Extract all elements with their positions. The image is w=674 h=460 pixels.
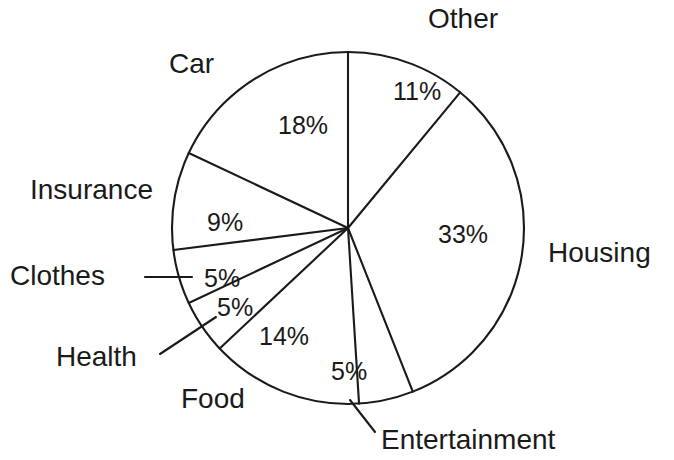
percentage-label-insurance: 9%: [207, 208, 243, 236]
category-label-clothes: Clothes: [10, 260, 105, 291]
leader-line-entertainment: [350, 400, 375, 432]
category-label-car: Car: [169, 48, 214, 79]
slice-category-labels: OtherHousingEntertainmentFoodHealthCloth…: [10, 3, 651, 455]
slice-divider-insurance: [173, 228, 348, 250]
pie-chart-figure: 11%33%5%14%5%5%9%18% OtherHousingEnterta…: [0, 0, 674, 460]
category-label-other: Other: [428, 3, 498, 34]
category-label-food: Food: [181, 383, 245, 414]
percentage-label-health: 5%: [217, 293, 253, 321]
percentage-label-food: 14%: [259, 322, 309, 350]
percentage-label-entertainment: 5%: [331, 357, 367, 385]
category-label-housing: Housing: [548, 237, 651, 268]
percentage-label-clothes: 5%: [204, 264, 240, 292]
percentage-label-housing: 33%: [438, 220, 488, 248]
label-leader-lines: [145, 277, 375, 432]
percentage-label-other: 11%: [393, 77, 441, 105]
category-label-entertainment: Entertainment: [381, 424, 556, 455]
category-label-insurance: Insurance: [30, 174, 153, 205]
pie-chart-canvas: 11%33%5%14%5%5%9%18% OtherHousingEnterta…: [0, 0, 674, 460]
category-label-health: Health: [56, 341, 137, 372]
percentage-label-car: 18%: [278, 111, 328, 139]
slice-divider-housing: [348, 92, 460, 228]
